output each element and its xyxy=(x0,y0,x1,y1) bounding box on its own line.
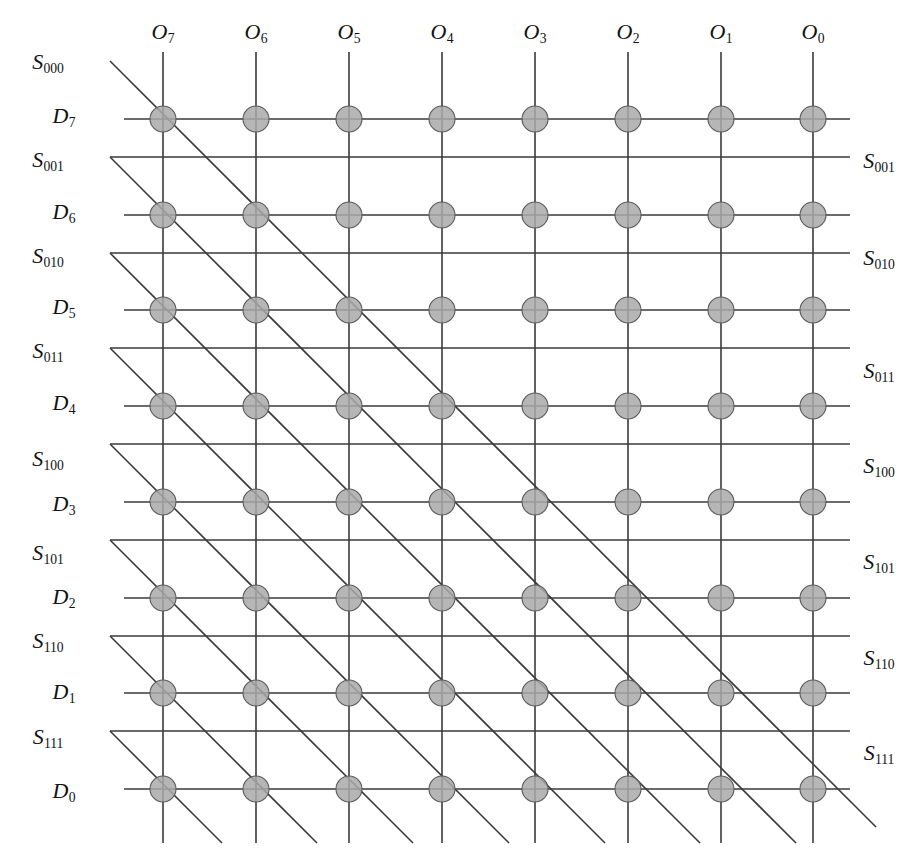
crosspoint-node-D5-O7[interactable] xyxy=(150,297,176,323)
crosspoint-node-D5-O3[interactable] xyxy=(522,297,548,323)
left-label-D5: D5 xyxy=(53,296,76,318)
crosspoint-node-D2-O1[interactable] xyxy=(708,585,734,611)
left-label-S100-subscript: 100 xyxy=(43,458,63,473)
crosspoint-node-D4-O6[interactable] xyxy=(243,393,269,419)
crosspoint-node-D6-O2[interactable] xyxy=(615,202,641,228)
right-label-S110: S110 xyxy=(863,647,894,669)
left-label-D4-base: D xyxy=(53,390,69,415)
column-header-O7-base: O xyxy=(152,19,168,44)
crosspoint-node-D7-O4[interactable] xyxy=(429,106,455,132)
left-label-S000: S000 xyxy=(32,51,64,73)
left-label-D3-base: D xyxy=(53,491,69,516)
crosspoint-node-D2-O0[interactable] xyxy=(800,585,826,611)
crosspoint-node-D6-O0[interactable] xyxy=(800,202,826,228)
crosspoint-node-D2-O3[interactable] xyxy=(522,585,548,611)
crosspoint-node-D1-O2[interactable] xyxy=(615,680,641,706)
crosspoint-node-D5-O0[interactable] xyxy=(800,297,826,323)
crosspoint-node-D4-O1[interactable] xyxy=(708,393,734,419)
column-header-O3-base: O xyxy=(524,19,540,44)
column-header-O5-subscript: 5 xyxy=(354,31,361,46)
crosspoint-node-D1-O7[interactable] xyxy=(150,680,176,706)
crosspoint-node-D3-O7[interactable] xyxy=(150,489,176,515)
crosspoint-node-D1-O5[interactable] xyxy=(336,680,362,706)
crosspoint-node-D2-O7[interactable] xyxy=(150,585,176,611)
right-label-S100-base: S xyxy=(863,453,874,478)
crosspoint-node-D7-O1[interactable] xyxy=(708,106,734,132)
crosspoint-node-D2-O4[interactable] xyxy=(429,585,455,611)
crosspoint-node-D7-O2[interactable] xyxy=(615,106,641,132)
column-header-O1-base: O xyxy=(710,19,726,44)
crosspoint-node-D5-O6[interactable] xyxy=(243,297,269,323)
crosspoint-node-D5-O4[interactable] xyxy=(429,297,455,323)
crossbar-diagram: O7O6O5O4O3O2O1O0S000D7S001D6S010D5S011D4… xyxy=(0,0,918,849)
left-label-D1: D1 xyxy=(53,681,76,703)
right-label-S001: S001 xyxy=(863,150,895,172)
crosspoint-node-D3-O5[interactable] xyxy=(336,489,362,515)
crosspoint-node-D2-O6[interactable] xyxy=(243,585,269,611)
column-header-O0-subscript: 0 xyxy=(818,31,825,46)
left-label-D3-subscript: 3 xyxy=(69,503,76,518)
left-label-S001-subscript: 001 xyxy=(43,159,63,174)
right-label-S101: S101 xyxy=(863,551,895,573)
left-label-S001: S001 xyxy=(32,149,64,171)
crosspoint-node-D2-O2[interactable] xyxy=(615,585,641,611)
crosspoint-node-D3-O0[interactable] xyxy=(800,489,826,515)
crosspoint-node-D1-O6[interactable] xyxy=(243,680,269,706)
crosspoint-node-D3-O6[interactable] xyxy=(243,489,269,515)
left-label-S101-subscript: 101 xyxy=(43,552,63,567)
crosspoint-node-D4-O4[interactable] xyxy=(429,393,455,419)
crosspoint-node-D6-O5[interactable] xyxy=(336,202,362,228)
select-line-diagonal-2 xyxy=(110,253,700,843)
crosspoint-node-D4-O0[interactable] xyxy=(800,393,826,419)
left-label-D2-subscript: 2 xyxy=(69,596,76,611)
crosspoint-node-D3-O4[interactable] xyxy=(429,489,455,515)
crosspoint-node-D4-O7[interactable] xyxy=(150,393,176,419)
crosspoint-node-D0-O3[interactable] xyxy=(522,776,548,802)
column-header-O6: O6 xyxy=(245,21,268,43)
crosspoint-node-D7-O3[interactable] xyxy=(522,106,548,132)
left-label-D0-subscript: 0 xyxy=(69,790,76,805)
left-label-D0-base: D xyxy=(53,778,69,803)
column-header-O1-subscript: 1 xyxy=(726,31,733,46)
crosspoint-node-D0-O0[interactable] xyxy=(800,776,826,802)
crosspoint-node-D2-O5[interactable] xyxy=(336,585,362,611)
crosspoint-node-D5-O1[interactable] xyxy=(708,297,734,323)
right-label-S100: S100 xyxy=(863,455,895,477)
crosspoint-node-D1-O0[interactable] xyxy=(800,680,826,706)
crosspoint-node-D6-O4[interactable] xyxy=(429,202,455,228)
crosspoint-node-D0-O2[interactable] xyxy=(615,776,641,802)
right-label-S010-subscript: 010 xyxy=(874,257,894,272)
crosspoint-node-D4-O3[interactable] xyxy=(522,393,548,419)
left-label-D2: D2 xyxy=(53,586,76,608)
crosspoint-node-D0-O7[interactable] xyxy=(150,776,176,802)
select-line-diagonal-6 xyxy=(110,636,317,843)
crosspoint-node-D0-O5[interactable] xyxy=(336,776,362,802)
crosspoint-node-D7-O7[interactable] xyxy=(150,106,176,132)
crosspoint-node-D3-O1[interactable] xyxy=(708,489,734,515)
crosspoint-node-D1-O4[interactable] xyxy=(429,680,455,706)
left-label-D7-subscript: 7 xyxy=(69,115,76,130)
crosspoint-node-D6-O7[interactable] xyxy=(150,202,176,228)
crosspoint-node-D7-O0[interactable] xyxy=(800,106,826,132)
crosspoint-node-D6-O6[interactable] xyxy=(243,202,269,228)
crosspoint-node-D1-O3[interactable] xyxy=(522,680,548,706)
crosspoint-node-D4-O5[interactable] xyxy=(336,393,362,419)
column-header-O7-subscript: 7 xyxy=(168,31,175,46)
crosspoint-node-D7-O5[interactable] xyxy=(336,106,362,132)
crosspoint-node-D0-O4[interactable] xyxy=(429,776,455,802)
crosspoint-node-D7-O6[interactable] xyxy=(243,106,269,132)
crosspoint-node-D6-O3[interactable] xyxy=(522,202,548,228)
crosspoint-node-D1-O1[interactable] xyxy=(708,680,734,706)
right-label-S001-base: S xyxy=(863,148,874,173)
crosspoint-node-D0-O1[interactable] xyxy=(708,776,734,802)
column-header-O3: O3 xyxy=(524,21,547,43)
crosspoint-node-D0-O6[interactable] xyxy=(243,776,269,802)
crosspoint-node-D3-O3[interactable] xyxy=(522,489,548,515)
crosspoint-node-D3-O2[interactable] xyxy=(615,489,641,515)
crosspoint-node-D4-O2[interactable] xyxy=(615,393,641,419)
crosspoint-node-D6-O1[interactable] xyxy=(708,202,734,228)
right-label-S101-subscript: 101 xyxy=(874,561,894,576)
crosspoint-node-D5-O2[interactable] xyxy=(615,297,641,323)
left-label-S100: S100 xyxy=(32,448,64,470)
crosspoint-node-D5-O5[interactable] xyxy=(336,297,362,323)
